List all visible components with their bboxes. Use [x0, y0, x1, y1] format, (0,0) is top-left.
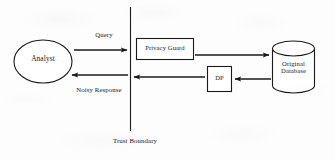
trust-boundary-label: Trust Boundary: [96, 137, 174, 144]
diagram-canvas: Analyst Privacy Guard DP Original Databa…: [0, 0, 335, 160]
database-node-top: [273, 41, 315, 56]
analyst-node-label: Analyst: [14, 55, 72, 63]
diagram-vector-layer: [0, 0, 335, 160]
dp-node-label: DP: [207, 74, 232, 81]
privacy-guard-node-label: Privacy Guard: [136, 44, 194, 51]
database-node-label: Original Database: [272, 60, 315, 75]
query-edge-label: Query: [78, 31, 130, 38]
database-node-label-line1: Original: [272, 60, 315, 67]
noisy-response-edge-label: Noisy Response: [60, 86, 138, 93]
database-node-label-line2: Database: [272, 67, 315, 74]
